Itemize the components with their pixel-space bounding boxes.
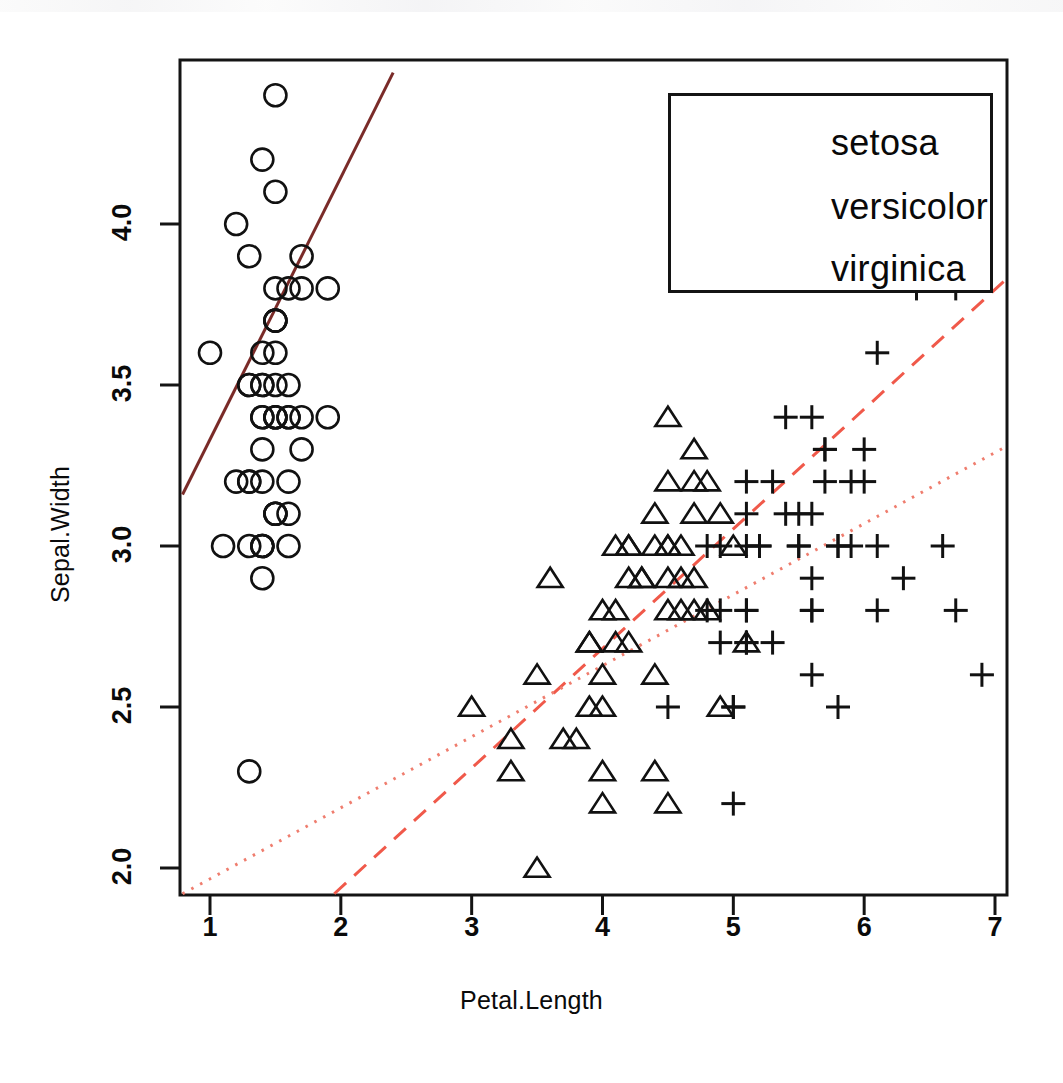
x-tick-label: 1: [202, 912, 217, 943]
legend[interactable]: setosa versicolor virginica: [668, 93, 993, 293]
legend-label-virginica: virginica: [831, 248, 966, 290]
y-tick-label: 2.5: [107, 671, 138, 741]
x-tick-label: 5: [726, 912, 741, 943]
y-tick-label: 3.5: [107, 349, 138, 419]
y-tick-label: 4.0: [107, 188, 138, 258]
x-tick-label: 2: [333, 912, 348, 943]
legend-label-setosa: setosa: [831, 122, 939, 164]
y-tick-label: 2.0: [107, 832, 138, 902]
legend-row: versicolor: [671, 184, 990, 240]
x-tick-label: 4: [595, 912, 610, 943]
legend-label-versicolor: versicolor: [831, 186, 988, 228]
x-axis-label: Petal.Length: [0, 986, 1063, 1015]
legend-row: virginica: [671, 246, 990, 302]
y-axis-label: Sepal.Width: [46, 415, 75, 655]
x-tick-label: 7: [987, 912, 1002, 943]
legend-row: setosa: [671, 120, 990, 176]
y-tick-label: 3.0: [107, 510, 138, 580]
x-tick-label: 3: [464, 912, 479, 943]
x-tick-label: 6: [857, 912, 872, 943]
